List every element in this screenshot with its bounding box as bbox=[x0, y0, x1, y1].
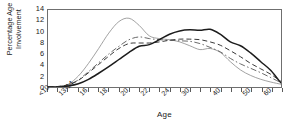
y-axis-title: Percentage Age Involvement bbox=[6, 0, 28, 74]
y-tick-label: 10 bbox=[36, 28, 44, 35]
x-tick-mark bbox=[282, 88, 283, 92]
data-series-line bbox=[48, 29, 281, 87]
y-tick-label: 4 bbox=[40, 62, 44, 69]
x-axis-title: Age bbox=[47, 110, 282, 119]
series-canvas bbox=[48, 10, 281, 87]
y-tick-label: 12 bbox=[36, 17, 44, 24]
y-tick-label: 2 bbox=[40, 73, 44, 80]
y-tick-label: 6 bbox=[40, 50, 44, 57]
plot-area bbox=[47, 9, 282, 88]
y-tick-label: 8 bbox=[40, 39, 44, 46]
data-series-line bbox=[48, 37, 281, 87]
chart-figure: Percentage Age Involvement 02468101214 <… bbox=[0, 0, 291, 125]
y-axis-tick-labels: 02468101214 bbox=[28, 7, 44, 91]
data-series-line bbox=[48, 39, 281, 87]
data-series-line bbox=[48, 18, 281, 87]
y-tick-label: 14 bbox=[36, 5, 44, 12]
